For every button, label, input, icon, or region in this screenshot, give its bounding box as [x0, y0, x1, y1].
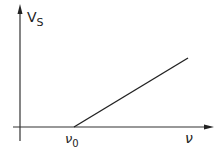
x-axis-label: ν	[185, 131, 193, 145]
y-axis-arrow-icon	[18, 4, 23, 14]
data-line	[74, 58, 188, 127]
y-axis-label: VS	[27, 10, 44, 24]
chart: VS ν0 ν	[0, 0, 223, 155]
threshold-tick-label: ν0	[65, 132, 79, 145]
x-axis-arrow-icon	[204, 125, 214, 130]
